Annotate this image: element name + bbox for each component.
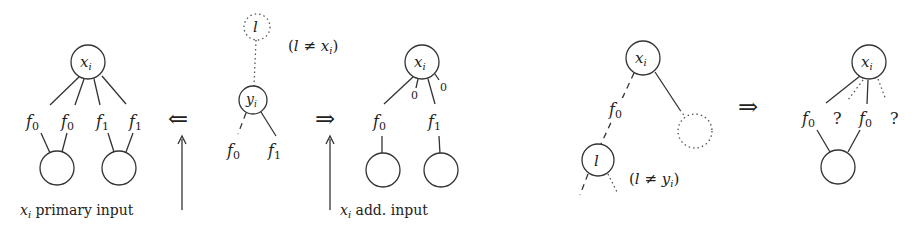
implies-left-arrow: ⇐ — [168, 105, 188, 133]
label-y-f1: f1 — [267, 141, 281, 162]
edge-x-to-zero-b — [435, 74, 439, 80]
label-f0-right: f0 — [372, 112, 386, 133]
zero-label-b: 0 — [440, 81, 447, 94]
implies-right-arrow-1: ⇒ — [315, 105, 335, 133]
edge-right-dotted — [680, 110, 686, 118]
edge-y-to-f0-dashed — [238, 113, 246, 134]
child-node-right — [102, 151, 136, 185]
edge-f0b-to-child — [848, 130, 860, 152]
node-dotted-right — [678, 114, 712, 148]
edge-l-down-right-dotted — [608, 174, 617, 192]
edge-y-to-f1 — [261, 112, 276, 136]
edge-x-to-f1b — [102, 76, 126, 104]
edge-f1b-to-child — [126, 133, 133, 152]
implies-right-arrow-2: ⇒ — [738, 93, 758, 121]
edge-x-to-f0b — [867, 80, 868, 104]
edge-x-to-f0a — [826, 76, 860, 103]
edge-x-to-f0b — [75, 79, 84, 105]
zero-label-a: 0 — [411, 89, 418, 102]
shared-child-node — [821, 150, 855, 184]
panel-2-tree: xi 0 0 f0 f1 — [366, 45, 458, 187]
center-node-group: l (l ≠ xi) yi f0 f1 — [226, 14, 338, 162]
label-f0-p4-b: f0 — [858, 109, 872, 130]
panel-3-tree: xi f0 l (l ≠ yi) — [580, 41, 712, 195]
diagram-canvas: xi f0 f0 f1 f1 ⇐ xi primary input l (l ≠… — [0, 0, 919, 229]
edge-x-to-f1 — [428, 79, 435, 104]
panel-4-tree: xi f0 ? f0 ? — [801, 45, 899, 184]
edge-x-to-q-b-dotted — [878, 79, 886, 100]
child-node-f0 — [366, 153, 400, 187]
edge-f0b-to-child — [62, 133, 67, 152]
edge-x-to-zero-a — [416, 79, 418, 88]
edge-f0a-to-child — [817, 130, 830, 152]
condition-l-neq-x: (l ≠ xi) — [288, 37, 338, 56]
caption-additional-input: xi add. input — [340, 202, 428, 220]
label-f0-p4-a: f0 — [801, 109, 815, 130]
edge-x-to-f1a — [94, 79, 100, 105]
edge-x-to-right — [655, 72, 680, 110]
node-l-p3-label: l — [594, 152, 599, 170]
label-unknown-a: ? — [833, 109, 842, 128]
edge-f0a-to-child — [41, 133, 50, 153]
label-f0-b: f0 — [60, 112, 74, 133]
label-f1-a: f1 — [95, 112, 109, 133]
child-node-f1 — [424, 153, 458, 187]
label-f1-b: f1 — [128, 112, 142, 133]
label-f0-a: f0 — [25, 112, 39, 133]
label-y-f0: f0 — [226, 141, 240, 162]
edge-l-down-left-dashed — [580, 174, 588, 195]
label-f1-right: f1 — [427, 112, 441, 133]
label-unknown-b: ? — [890, 109, 899, 128]
edge-f1-to-child — [439, 136, 440, 154]
panel-1-tree: xi f0 f0 f1 f1 — [25, 45, 142, 185]
condition-l-neq-y: (l ≠ yi) — [629, 170, 679, 189]
edge-f1a-to-child — [108, 133, 114, 152]
caption-primary-input: xi primary input — [20, 202, 134, 220]
child-node-left — [40, 151, 74, 185]
edge-l-to-y-dotted — [254, 40, 256, 86]
edge-x-to-f0 — [384, 77, 413, 104]
edge-x-to-f0a — [50, 76, 80, 105]
node-l-label: l — [253, 18, 258, 36]
